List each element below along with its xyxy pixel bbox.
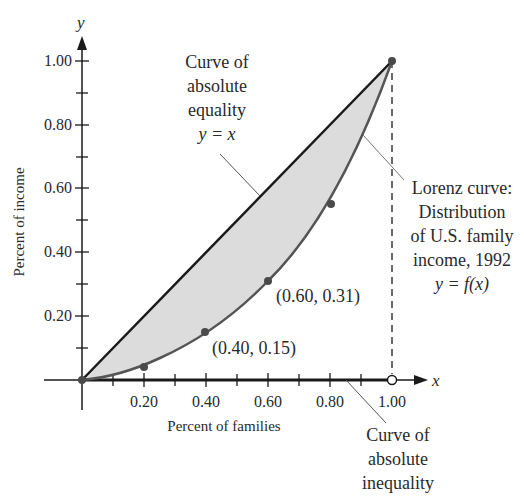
point-020: [140, 363, 148, 371]
point-060: [264, 277, 272, 285]
svg-text:of U.S. family: of U.S. family: [411, 226, 514, 246]
svg-text:absolute: absolute: [187, 76, 247, 96]
y-tick-labels: 0.20 0.40 0.60 0.80 1.00: [44, 52, 72, 324]
lorenz-chart: y x 0.20 0.40 0.60 0.80 1.00 0.20: [0, 0, 524, 501]
svg-text:0.20: 0.20: [130, 393, 158, 410]
x-axis-arrow-icon: [414, 375, 428, 385]
svg-text:inequality: inequality: [362, 473, 434, 493]
svg-text:0.40: 0.40: [44, 243, 72, 260]
svg-text:Curve of: Curve of: [185, 52, 248, 72]
point-040-label: (0.40, 0.15): [212, 338, 296, 359]
point-060-label: (0.60, 0.31): [276, 286, 360, 307]
x-axis-title: Percent of families: [167, 418, 280, 434]
y-axis-arrow-icon: [77, 36, 87, 50]
point-080: [327, 200, 335, 208]
equality-label: Curve of absolute equality y = x: [185, 52, 248, 144]
svg-text:0.80: 0.80: [44, 116, 72, 133]
y-axis-title: Percent of income: [11, 167, 27, 276]
point-origin: [78, 376, 86, 384]
open-point-100: [388, 376, 397, 385]
svg-text:0.60: 0.60: [254, 393, 282, 410]
svg-text:0.80: 0.80: [316, 393, 344, 410]
lorenz-label: Lorenz curve: Distribution of U.S. famil…: [411, 178, 514, 295]
point-040: [201, 328, 209, 336]
svg-text:1.00: 1.00: [44, 52, 72, 69]
inequality-label: Curve of absolute inequality: [362, 425, 434, 493]
lorenz-leader-line: [363, 135, 404, 180]
svg-text:0.60: 0.60: [44, 179, 72, 196]
svg-text:y = f(x): y = f(x): [433, 274, 489, 295]
svg-text:Distribution: Distribution: [418, 202, 505, 222]
equality-leader-line: [220, 154, 260, 196]
svg-text:Curve of: Curve of: [366, 425, 429, 445]
y-axis-symbol: y: [75, 13, 85, 32]
x-axis-symbol: x: [431, 371, 440, 390]
svg-text:1.00: 1.00: [378, 393, 406, 410]
svg-text:income, 1992: income, 1992: [413, 250, 511, 270]
svg-text:equality: equality: [188, 100, 246, 120]
point-top: [388, 57, 396, 65]
svg-text:Lorenz curve:: Lorenz curve:: [412, 178, 512, 198]
x-tick-labels: 0.20 0.40 0.60 0.80 1.00: [130, 393, 406, 410]
svg-text:0.20: 0.20: [44, 307, 72, 324]
svg-text:y = x: y = x: [196, 124, 235, 144]
svg-text:absolute: absolute: [368, 449, 428, 469]
svg-text:0.40: 0.40: [192, 393, 220, 410]
